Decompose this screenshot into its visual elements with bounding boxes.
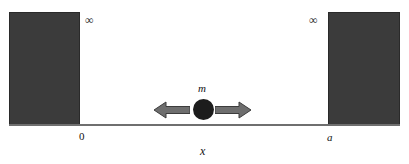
right-infinity-label: ∞ <box>309 14 318 26</box>
axis-name-label: x <box>200 145 205 157</box>
axis-tick-label-a: a <box>327 132 333 143</box>
left-infinity-label: ∞ <box>85 14 94 26</box>
position-axis-line <box>9 124 400 126</box>
particle-mass-label: m <box>198 83 206 94</box>
right-motion-arrow <box>215 101 251 119</box>
axis-tick-label-zero: 0 <box>79 131 85 142</box>
particle-mass <box>193 99 214 120</box>
left-infinite-potential-wall <box>9 12 80 125</box>
infinite-square-well-diagram: ∞ ∞ 0 a x m <box>0 0 409 164</box>
right-infinite-potential-wall <box>328 12 400 125</box>
left-motion-arrow <box>154 101 190 119</box>
